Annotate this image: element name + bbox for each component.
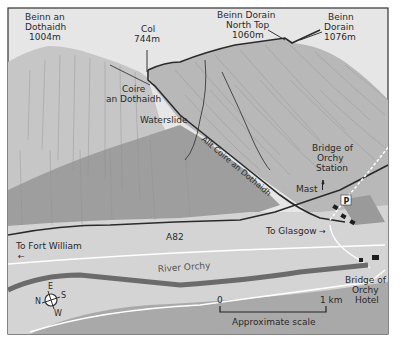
label-a82: A82 xyxy=(166,232,184,242)
peak-beinn-dorain: Beinn Dorain 1076m xyxy=(324,12,356,42)
svg-text:Approximate scale: Approximate scale xyxy=(232,317,316,327)
svg-text:E: E xyxy=(48,282,53,291)
svg-text:Dorain: Dorain xyxy=(324,22,354,32)
label-coire: Coire xyxy=(122,84,146,94)
svg-text:Beinn Dorain: Beinn Dorain xyxy=(217,10,275,20)
svg-text:1060m: 1060m xyxy=(232,30,264,40)
svg-text:Dothaidh: Dothaidh xyxy=(25,22,66,32)
svg-text:N: N xyxy=(35,297,41,306)
svg-text:Col: Col xyxy=(141,24,155,34)
svg-text:0: 0 xyxy=(217,295,223,305)
svg-text:North Top: North Top xyxy=(226,20,270,30)
label-coire-2: an Dothaidh xyxy=(106,94,161,104)
label-hotel-3: Hotel xyxy=(355,295,379,305)
svg-text:S: S xyxy=(61,291,66,300)
svg-text:1004m: 1004m xyxy=(29,32,61,42)
label-station-1: Bridge of xyxy=(312,143,354,153)
label-to-fort-william: To Fort William xyxy=(15,241,82,251)
svg-text:Beinn an: Beinn an xyxy=(25,12,65,22)
svg-text:W: W xyxy=(54,309,62,318)
svg-text:744m: 744m xyxy=(134,34,160,44)
label-station-2: Orchy xyxy=(317,153,344,163)
svg-text:1 km: 1 km xyxy=(320,295,343,305)
peak-beinn-an-dothaidh: Beinn an Dothaidh 1004m xyxy=(25,12,66,42)
svg-text:P: P xyxy=(344,197,350,206)
arrow-fort-william-icon: ← xyxy=(18,252,25,261)
label-waterslide: Waterslide xyxy=(140,115,188,125)
label-hotel-1: Bridge of xyxy=(345,275,387,285)
label-to-glasgow: To Glasgow xyxy=(265,226,317,236)
label-station-3: Station xyxy=(316,163,348,173)
route-map: P Beinn an Dothaidh 1004m Col 744m Beinn… xyxy=(0,0,400,342)
svg-text:1076m: 1076m xyxy=(324,32,356,42)
label-hotel-2: Orchy xyxy=(352,285,379,295)
svg-text:Beinn: Beinn xyxy=(328,12,354,22)
parking-icon: P xyxy=(341,195,351,206)
arrow-glasgow-icon: → xyxy=(319,227,326,236)
label-mast: Mast xyxy=(296,184,318,194)
